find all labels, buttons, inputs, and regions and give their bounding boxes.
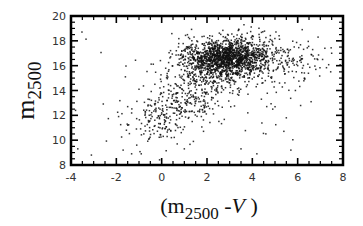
data-point bbox=[188, 111, 190, 113]
data-point bbox=[255, 54, 257, 56]
data-point bbox=[186, 104, 188, 106]
data-point bbox=[178, 38, 180, 40]
data-point bbox=[314, 58, 316, 60]
data-point bbox=[224, 119, 226, 121]
data-point bbox=[239, 71, 241, 73]
data-point bbox=[240, 148, 242, 150]
data-point bbox=[275, 69, 277, 71]
data-point bbox=[167, 78, 169, 80]
data-point bbox=[324, 48, 326, 50]
data-point bbox=[181, 53, 183, 55]
data-point bbox=[221, 88, 223, 90]
data-point bbox=[260, 67, 262, 69]
data-point bbox=[223, 89, 225, 91]
data-point bbox=[187, 68, 189, 70]
data-point bbox=[150, 114, 152, 116]
data-point bbox=[189, 73, 191, 75]
data-point bbox=[315, 69, 317, 71]
data-point bbox=[200, 68, 202, 70]
data-point bbox=[261, 32, 263, 34]
data-point bbox=[259, 44, 261, 46]
data-point bbox=[265, 133, 267, 135]
data-point bbox=[220, 34, 222, 36]
data-point bbox=[270, 58, 272, 60]
data-point bbox=[190, 74, 192, 76]
data-point bbox=[218, 121, 220, 123]
data-point bbox=[218, 68, 220, 70]
data-point bbox=[185, 35, 187, 37]
data-point bbox=[149, 110, 151, 112]
data-point bbox=[207, 102, 209, 104]
data-point bbox=[244, 62, 246, 64]
data-point bbox=[298, 80, 300, 82]
data-point bbox=[217, 66, 219, 68]
data-point bbox=[239, 57, 241, 59]
data-point bbox=[204, 100, 206, 102]
data-point bbox=[188, 58, 190, 60]
data-point bbox=[212, 35, 214, 37]
data-point bbox=[221, 61, 223, 63]
data-point bbox=[205, 69, 207, 71]
data-point bbox=[247, 84, 249, 86]
data-point bbox=[244, 73, 246, 75]
data-point bbox=[161, 101, 163, 103]
data-point bbox=[278, 63, 280, 65]
data-point bbox=[301, 55, 303, 57]
data-point bbox=[155, 72, 157, 74]
data-point bbox=[216, 63, 218, 65]
data-point bbox=[247, 77, 249, 79]
data-point bbox=[262, 31, 264, 33]
data-point bbox=[206, 62, 208, 64]
data-point bbox=[216, 68, 218, 70]
data-point bbox=[162, 96, 164, 98]
data-point bbox=[168, 117, 170, 119]
data-point bbox=[232, 43, 234, 45]
data-point bbox=[168, 52, 170, 54]
data-point bbox=[178, 62, 180, 64]
data-point bbox=[246, 72, 248, 74]
data-point bbox=[257, 51, 259, 53]
data-point bbox=[283, 131, 285, 133]
data-point bbox=[147, 105, 149, 107]
data-point bbox=[158, 115, 160, 117]
data-point bbox=[181, 77, 183, 79]
data-point bbox=[198, 52, 200, 54]
data-point bbox=[212, 108, 214, 110]
data-point bbox=[164, 116, 166, 118]
data-point bbox=[192, 51, 194, 53]
data-point bbox=[182, 79, 184, 81]
data-point bbox=[167, 129, 169, 131]
data-point bbox=[81, 31, 83, 33]
data-point bbox=[247, 49, 249, 51]
data-point bbox=[181, 96, 183, 98]
data-point bbox=[247, 32, 249, 34]
data-point bbox=[211, 40, 213, 42]
data-point bbox=[290, 149, 292, 151]
data-point bbox=[126, 129, 128, 131]
data-point bbox=[199, 66, 201, 68]
data-point bbox=[202, 60, 204, 62]
data-point bbox=[302, 67, 304, 69]
data-point bbox=[189, 144, 191, 146]
data-point bbox=[245, 46, 247, 48]
data-point bbox=[184, 62, 186, 64]
data-point bbox=[208, 54, 210, 56]
data-point bbox=[185, 93, 187, 95]
data-point bbox=[211, 53, 213, 55]
data-point bbox=[271, 43, 273, 45]
data-point bbox=[188, 88, 190, 90]
data-point bbox=[258, 50, 260, 52]
data-point bbox=[242, 63, 244, 65]
data-point bbox=[229, 47, 231, 49]
data-point bbox=[186, 95, 188, 97]
data-point bbox=[246, 58, 248, 60]
data-point bbox=[229, 67, 231, 69]
data-point bbox=[183, 65, 185, 67]
data-point bbox=[193, 96, 195, 98]
data-point bbox=[163, 136, 165, 138]
data-point bbox=[233, 62, 235, 64]
data-point bbox=[296, 42, 298, 44]
data-point bbox=[159, 87, 161, 89]
data-point bbox=[202, 109, 204, 111]
data-point bbox=[273, 86, 275, 88]
